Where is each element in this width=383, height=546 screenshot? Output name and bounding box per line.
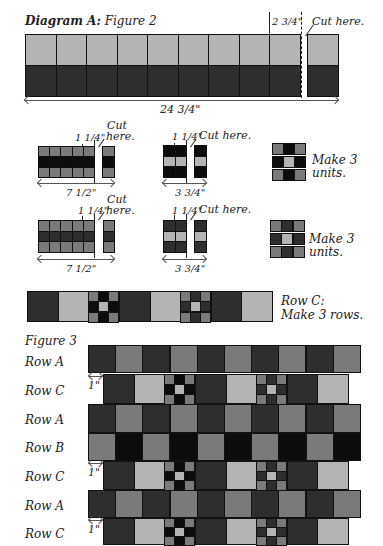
- block: [226, 374, 258, 404]
- row-b-block: [142, 433, 170, 461]
- row-a-block: [278, 345, 306, 373]
- row-a-block: [224, 345, 252, 373]
- row-a-block: [115, 490, 143, 518]
- row-a-block: [170, 404, 198, 433]
- offset-dimension: [89, 376, 102, 377]
- block: [195, 461, 227, 490]
- offset-dimension: [89, 463, 102, 464]
- row-b-block: [333, 433, 361, 461]
- block: [226, 461, 258, 490]
- block: [195, 518, 227, 545]
- row-a-block: [197, 345, 225, 373]
- figure-3-row-label: Row C: [25, 385, 65, 398]
- row-a-block: [142, 490, 170, 518]
- row-a-block: [115, 345, 143, 373]
- block: [103, 518, 135, 545]
- row-a-block: [333, 490, 361, 518]
- row-a-block: [197, 404, 225, 433]
- row-b-block: [224, 433, 252, 461]
- row-a-block: [170, 345, 198, 373]
- offset-label: 1": [88, 380, 100, 392]
- row-a-block: [224, 404, 252, 433]
- block: [134, 461, 166, 490]
- nine-patch-square: [184, 536, 195, 546]
- row-b-block: [278, 433, 306, 461]
- figure-3-row-label: Row C: [25, 528, 65, 541]
- block: [103, 374, 135, 404]
- block: [226, 518, 258, 545]
- row-a-block: [197, 490, 225, 518]
- block: [317, 518, 349, 545]
- block: [287, 461, 319, 490]
- block: [317, 461, 349, 490]
- row-a-block: [142, 345, 170, 373]
- row-b-block: [88, 433, 116, 461]
- row-a-block: [333, 345, 361, 373]
- block: [134, 518, 166, 545]
- figure-3-row-label: Row A: [25, 414, 64, 427]
- row-b-block: [197, 433, 225, 461]
- nine-patch-square: [276, 536, 287, 546]
- block: [134, 374, 166, 404]
- block: [103, 461, 135, 490]
- row-a-block: [251, 404, 279, 433]
- figure-3-row-label: Row A: [25, 500, 64, 513]
- row-a-block: [278, 404, 306, 433]
- row-b-block: [170, 433, 198, 461]
- figure-3-row-label: Row A: [25, 356, 64, 369]
- row-a-block: [88, 490, 116, 518]
- row-a-block: [88, 404, 116, 433]
- figure-3-row-label: Row B: [25, 442, 64, 455]
- offset-dimension: [89, 520, 102, 521]
- row-a-block: [142, 404, 170, 433]
- row-a-block: [306, 490, 334, 518]
- row-a-block: [224, 490, 252, 518]
- row-a-block: [306, 345, 334, 373]
- figure-3-row-label: Row C: [25, 471, 65, 484]
- row-a-block: [333, 404, 361, 433]
- block: [287, 518, 319, 545]
- row-b-block: [251, 433, 279, 461]
- row-b-block: [306, 433, 334, 461]
- row-a-block: [88, 345, 116, 373]
- offset-label: 1": [88, 524, 100, 536]
- row-a-block: [115, 404, 143, 433]
- block: [317, 374, 349, 404]
- block: [287, 374, 319, 404]
- row-a-block: [278, 490, 306, 518]
- offset-label: 1": [88, 467, 100, 479]
- row-a-block: [251, 490, 279, 518]
- row-a-block: [170, 490, 198, 518]
- row-a-block: [306, 404, 334, 433]
- block: [195, 374, 227, 404]
- row-a-block: [251, 345, 279, 373]
- row-b-block: [115, 433, 143, 461]
